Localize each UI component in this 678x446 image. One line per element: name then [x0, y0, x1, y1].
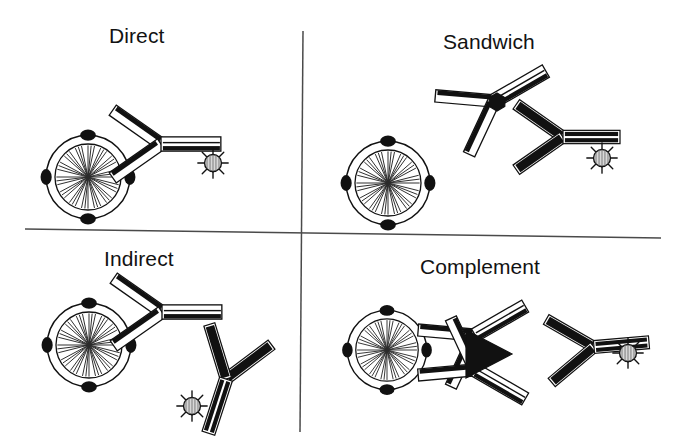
fluorophore-label	[613, 338, 643, 368]
fluorophore-label	[587, 143, 617, 173]
fluorophore-label	[177, 391, 207, 421]
fluorophore-label	[198, 148, 228, 178]
figure-canvas	[0, 0, 678, 446]
panel-title-sandwich: Sandwich	[443, 31, 535, 52]
immunofluorescence-figure: Direct Sandwich Indirect Complement	[0, 0, 678, 446]
panel-title-indirect: Indirect	[104, 248, 174, 269]
panel-title-complement: Complement	[420, 256, 540, 277]
panel-title-direct: Direct	[109, 25, 164, 46]
antigen-hexagon	[489, 93, 505, 111]
